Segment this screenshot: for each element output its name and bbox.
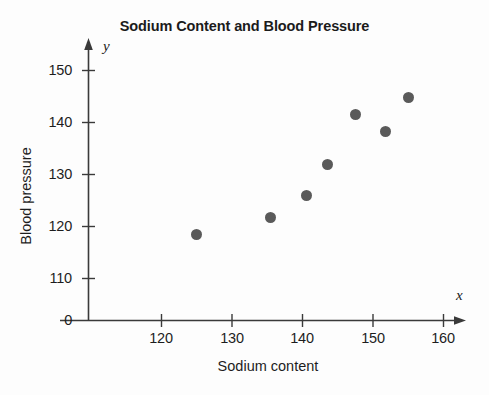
x-tick-label: 150 <box>346 330 400 346</box>
y-tick-label-origin: 0 <box>26 312 72 328</box>
data-point <box>191 229 202 240</box>
scatter-plot-figure: Sodium Content and Blood Pressure y x <box>0 0 489 395</box>
plot-area: y x 150 140 130 120 110 0 120 130 140 15… <box>0 0 489 395</box>
data-point <box>322 159 333 170</box>
data-point <box>350 109 361 120</box>
y-axis-title: Blood pressure <box>18 96 34 296</box>
x-tick-label: 160 <box>416 330 470 346</box>
y-axis-variable-label: y <box>103 38 110 55</box>
y-tick-label: 150 <box>26 62 72 78</box>
data-point <box>403 92 414 103</box>
data-point <box>265 212 276 223</box>
x-tick-label: 130 <box>205 330 259 346</box>
x-tick-label: 140 <box>275 330 329 346</box>
x-tick-label: 120 <box>134 330 188 346</box>
x-axis-variable-label: x <box>456 287 463 304</box>
x-axis-title: Sodium content <box>88 358 448 374</box>
data-point <box>301 190 312 201</box>
data-point <box>380 126 391 137</box>
